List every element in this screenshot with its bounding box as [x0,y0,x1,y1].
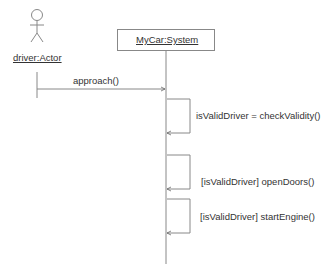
open-doors-self-message [167,155,190,191]
start-engine-message-label: [isValidDriver] startEngine() [200,211,315,222]
check-validity-self-message [167,99,190,135]
check-validity-message-label: isValidDriver = checkValidity() [196,110,321,121]
approach-message-label: approach() [73,75,119,86]
driver-participant-label: driver:Actor [13,52,62,63]
start-engine-self-message [167,199,190,235]
open-doors-message-label: [isValidDriver] openDoors() [201,176,314,187]
system-participant-label: MyCar:System [136,34,198,45]
approach-message-arrow [37,87,165,91]
actor-icon [30,10,44,43]
